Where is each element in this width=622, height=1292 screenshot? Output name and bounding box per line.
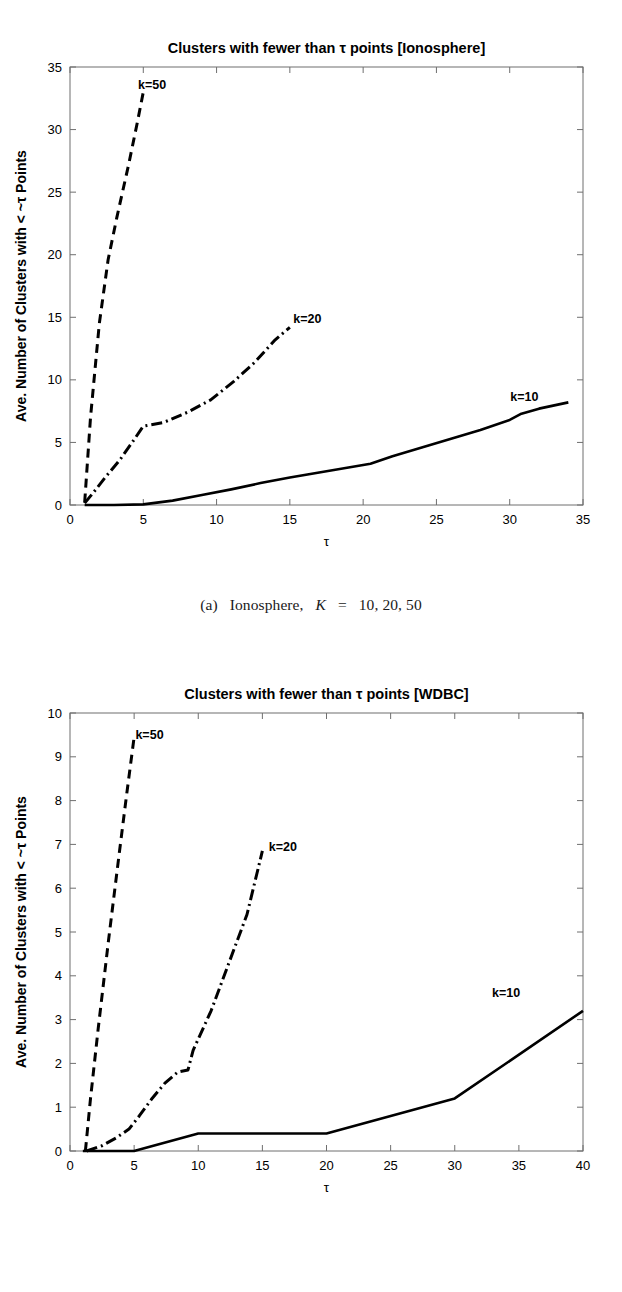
- figure-page: Clusters with fewer than τ points [Ionos…: [0, 0, 622, 1292]
- y-tick-label: 8: [55, 793, 62, 808]
- series-curve-k50: [85, 737, 134, 1151]
- y-tick-label: 7: [55, 837, 62, 852]
- y-tick-label: 6: [55, 881, 62, 896]
- caption-variable: K: [316, 596, 326, 613]
- x-tick-label: 35: [512, 1158, 526, 1173]
- subfigure-ionosphere: Clusters with fewer than τ points [Ionos…: [0, 0, 622, 646]
- x-tick-label: 20: [319, 1158, 333, 1173]
- y-axis-label: Ave. Number of Clusters with < ~τ Points: [13, 796, 29, 1068]
- series-label-k10: k=10: [510, 390, 538, 404]
- subfigure-wdbc: Clusters with fewer than τ points [WDBC]…: [0, 646, 622, 1292]
- x-tick-label: 15: [283, 512, 297, 527]
- series-curve-k20: [85, 327, 290, 503]
- y-tick-label: 10: [48, 372, 62, 387]
- y-tick-label: 30: [48, 122, 62, 137]
- chart-canvas-ionosphere: Clusters with fewer than τ points [Ionos…: [0, 0, 622, 570]
- series-label-k50: k=50: [138, 78, 166, 92]
- y-tick-label: 5: [55, 435, 62, 450]
- y-tick-label: 10: [48, 706, 62, 721]
- caption-equals: =: [338, 596, 347, 613]
- y-tick-label: 5: [55, 925, 62, 940]
- plot-frame: [70, 713, 583, 1151]
- y-tick-label: 1: [55, 1100, 62, 1115]
- caption-ionosphere: (a) Ionosphere, K = 10, 20, 50: [0, 596, 622, 614]
- plot-frame: [70, 67, 583, 505]
- series-label-k20: k=20: [293, 312, 321, 326]
- x-tick-label: 0: [66, 512, 73, 527]
- y-tick-label: 0: [55, 1144, 62, 1159]
- x-tick-label: 20: [356, 512, 370, 527]
- x-tick-label: 30: [502, 512, 516, 527]
- series-curve-k10: [85, 402, 569, 505]
- y-tick-label: 2: [55, 1056, 62, 1071]
- x-axis-label: τ: [324, 534, 330, 549]
- series-label-k10: k=10: [492, 986, 520, 1000]
- y-tick-label: 0: [55, 498, 62, 513]
- chart-title: Clusters with fewer than τ points [Ionos…: [168, 40, 486, 56]
- y-axis-label: Ave. Number of Clusters with < ~τ Points: [13, 150, 29, 422]
- chart-title: Clusters with fewer than τ points [WDBC]: [184, 686, 469, 702]
- y-tick-label: 20: [48, 247, 62, 262]
- plot-ionosphere: Clusters with fewer than τ points [Ionos…: [0, 0, 622, 570]
- y-tick-label: 15: [48, 310, 62, 325]
- x-tick-label: 0: [66, 1158, 73, 1173]
- x-axis-label: τ: [324, 1180, 330, 1195]
- series-curve-k10: [83, 1011, 583, 1151]
- x-tick-label: 25: [429, 512, 443, 527]
- y-tick-label: 25: [48, 185, 62, 200]
- x-tick-label: 15: [255, 1158, 269, 1173]
- x-tick-label: 40: [576, 1158, 590, 1173]
- plot-wdbc: Clusters with fewer than τ points [WDBC]…: [0, 646, 622, 1216]
- x-tick-label: 10: [191, 1158, 205, 1173]
- x-tick-label: 30: [448, 1158, 462, 1173]
- series-label-k20: k=20: [269, 840, 297, 854]
- caption-values: 10, 20, 50: [359, 596, 422, 613]
- chart-canvas-wdbc: Clusters with fewer than τ points [WDBC]…: [0, 646, 622, 1216]
- x-tick-label: 5: [131, 1158, 138, 1173]
- y-tick-label: 4: [55, 968, 62, 983]
- caption-dataset-name: Ionosphere,: [230, 596, 304, 613]
- y-tick-label: 3: [55, 1012, 62, 1027]
- x-tick-label: 35: [576, 512, 590, 527]
- x-tick-label: 10: [209, 512, 223, 527]
- x-tick-label: 25: [383, 1158, 397, 1173]
- y-tick-label: 9: [55, 749, 62, 764]
- y-tick-label: 35: [48, 60, 62, 75]
- series-label-k50: k=50: [135, 728, 163, 742]
- caption-prefix: (a): [200, 596, 218, 613]
- x-tick-label: 5: [140, 512, 147, 527]
